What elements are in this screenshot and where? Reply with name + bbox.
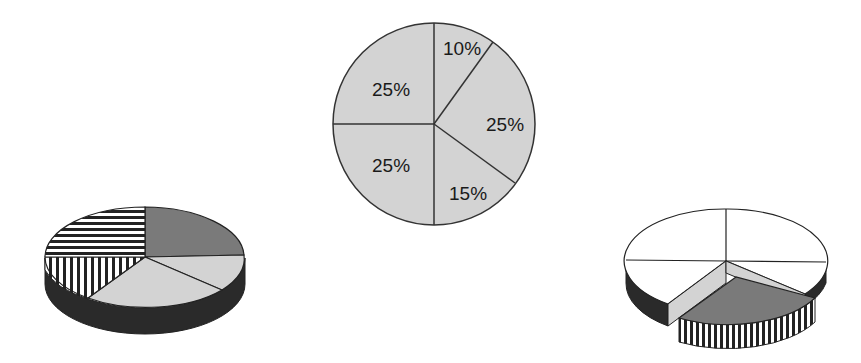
slice-label-15: 15% [449,183,487,204]
slice-label-10: 10% [443,38,481,59]
center-pie-chart: 10% 25% 15% 25% 25% [333,23,535,225]
charts-canvas: 10% 25% 15% 25% 25% [0,0,861,363]
slice-label-25-top-left: 25% [372,79,410,100]
slice-horizontal-stripes [45,207,145,257]
slice-dark-gray [145,207,244,257]
left-3d-pie-chart [45,207,245,334]
slice-label-25-right: 25% [486,114,524,135]
right-3d-pie-chart [624,209,828,349]
slice-label-25-bottom-left: 25% [372,155,410,176]
